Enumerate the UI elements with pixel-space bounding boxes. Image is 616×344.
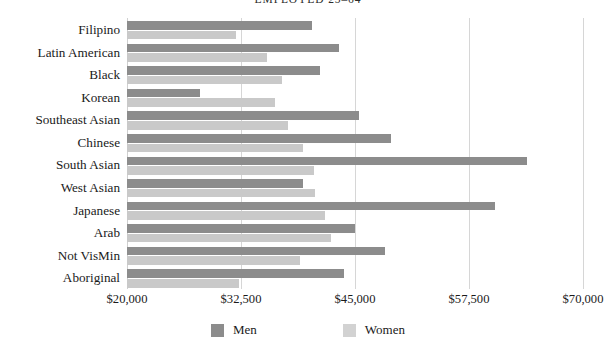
x-axis-tick-label: $20,000: [107, 292, 148, 307]
bar-group: [127, 18, 583, 41]
y-axis-label-black: Black: [0, 68, 120, 81]
bar-chart: EMPLOYED 25–64 FilipinoLatin AmericanBla…: [0, 0, 616, 344]
bar-men[interactable]: [127, 269, 344, 278]
y-axis-label-aboriginal: Aboriginal: [0, 271, 120, 284]
bar-women[interactable]: [127, 121, 288, 130]
bar-women[interactable]: [127, 76, 282, 85]
bar-men[interactable]: [127, 202, 495, 211]
bar-group: [127, 266, 583, 289]
y-axis-label-west-asian: West Asian: [0, 181, 120, 194]
y-axis-label-not-vismin: Not VisMin: [0, 249, 120, 262]
chart-legend: Men Women: [0, 320, 616, 340]
y-axis-label-arab: Arab: [0, 226, 120, 239]
legend-item-women[interactable]: Women: [343, 322, 405, 338]
bar-women[interactable]: [127, 234, 331, 243]
legend-swatch-women-icon: [343, 324, 356, 337]
bar-women[interactable]: [127, 53, 267, 62]
bar-group: [127, 221, 583, 244]
bar-men[interactable]: [127, 157, 527, 166]
bar-women[interactable]: [127, 256, 300, 265]
y-axis-label-latin-american: Latin American: [0, 46, 120, 59]
bar-men[interactable]: [127, 66, 320, 75]
y-axis-label-filipino: Filipino: [0, 23, 120, 36]
bar-group: [127, 63, 583, 86]
x-axis-tick-label: $57,500: [449, 292, 490, 307]
bar-group: [127, 154, 583, 177]
y-axis-label-southeast-asian: Southeast Asian: [0, 113, 120, 126]
bar-group: [127, 244, 583, 267]
bar-women[interactable]: [127, 211, 325, 220]
bar-women[interactable]: [127, 31, 236, 40]
y-axis-label-south-asian: South Asian: [0, 158, 120, 171]
bar-men[interactable]: [127, 44, 339, 53]
bar-men[interactable]: [127, 89, 200, 98]
bar-women[interactable]: [127, 189, 315, 198]
x-axis-tick-label: $70,000: [563, 292, 604, 307]
y-axis-label-chinese: Chinese: [0, 136, 120, 149]
bar-men[interactable]: [127, 21, 312, 30]
bar-group: [127, 41, 583, 64]
chart-title: EMPLOYED 25–64: [0, 0, 616, 5]
bar-men[interactable]: [127, 111, 359, 120]
plot-area: [127, 18, 583, 289]
gridline: [583, 18, 584, 289]
bar-group: [127, 131, 583, 154]
bar-group: [127, 199, 583, 222]
bar-women[interactable]: [127, 144, 303, 153]
bar-group: [127, 86, 583, 109]
bar-men[interactable]: [127, 134, 391, 143]
x-axis-tick-label: $45,000: [335, 292, 376, 307]
legend-item-men[interactable]: Men: [211, 322, 257, 338]
x-axis-tick-label: $32,500: [221, 292, 262, 307]
bar-women[interactable]: [127, 98, 275, 107]
x-axis-tick-labels: $20,000$32,500$45,000$57,500$70,000: [0, 292, 616, 310]
bar-group: [127, 176, 583, 199]
bar-men[interactable]: [127, 179, 303, 188]
legend-label-men: Men: [233, 322, 257, 338]
y-axis-label-korean: Korean: [0, 91, 120, 104]
bar-men[interactable]: [127, 247, 385, 256]
bar-women[interactable]: [127, 279, 239, 288]
y-axis-category-labels: FilipinoLatin AmericanBlackKoreanSouthea…: [0, 18, 120, 289]
bar-men[interactable]: [127, 224, 355, 233]
bar-group: [127, 108, 583, 131]
legend-swatch-men-icon: [211, 324, 224, 337]
y-axis-label-japanese: Japanese: [0, 204, 120, 217]
legend-label-women: Women: [365, 322, 405, 338]
bar-women[interactable]: [127, 166, 314, 175]
